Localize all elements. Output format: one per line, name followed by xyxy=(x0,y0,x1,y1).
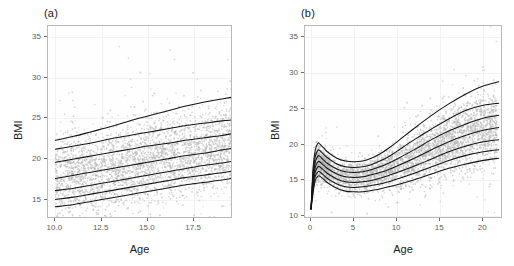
x-axis-tick-label: 5 xyxy=(351,223,355,232)
panel-a-tag: (a) xyxy=(44,7,58,19)
panel-a-x-axis-title: Age xyxy=(47,243,232,255)
y-axis-tick-mark xyxy=(44,117,47,118)
x-axis-tick-mark xyxy=(54,218,55,221)
y-axis-tick-mark xyxy=(301,72,304,73)
x-axis-tick-mark xyxy=(193,218,194,221)
x-axis-tick-label: 15.0 xyxy=(139,223,155,232)
data-layer xyxy=(305,26,502,218)
y-axis-tick-label: 20 xyxy=(274,139,298,148)
x-axis-tick-mark xyxy=(439,218,440,221)
centile-curve xyxy=(55,178,231,206)
x-axis-tick-label: 10.0 xyxy=(47,223,63,232)
y-axis-tick-mark xyxy=(301,108,304,109)
y-axis-tick-mark xyxy=(44,77,47,78)
y-axis-tick-label: 35 xyxy=(274,32,298,41)
x-axis-tick-mark xyxy=(147,218,148,221)
panel-a-plot-area xyxy=(47,25,232,218)
centile-curve xyxy=(55,97,231,140)
y-axis-tick-mark xyxy=(301,36,304,37)
x-axis-tick-mark xyxy=(482,218,483,221)
y-axis-tick-label: 35 xyxy=(17,32,41,41)
y-axis-tick-label: 10 xyxy=(274,211,298,220)
panel-b: (b) BMI Age 10152025303505101520 xyxy=(257,0,514,266)
panel-b-tag: (b) xyxy=(301,7,315,19)
x-axis-tick-label: 20 xyxy=(478,223,487,232)
y-axis-tick-label: 25 xyxy=(274,103,298,112)
panel-b-y-axis-title: BMI xyxy=(269,120,281,140)
y-axis-tick-mark xyxy=(301,179,304,180)
panel-a: (a) BMI Age 152025303510.012.515.017.5 xyxy=(0,0,257,266)
bmi-centile-figure: (a) BMI Age 152025303510.012.515.017.5 (… xyxy=(0,0,514,266)
panel-b-plot-area xyxy=(304,25,502,218)
x-axis-tick-label: 17.5 xyxy=(185,223,201,232)
y-axis-tick-mark xyxy=(44,199,47,200)
y-axis-tick-label: 15 xyxy=(274,175,298,184)
data-layer xyxy=(48,26,232,218)
x-axis-tick-mark xyxy=(396,218,397,221)
x-axis-tick-label: 10 xyxy=(392,223,401,232)
panel-b-x-axis-title: Age xyxy=(304,243,502,255)
x-axis-tick-label: 0 xyxy=(308,223,312,232)
y-axis-tick-label: 20 xyxy=(17,154,41,163)
y-axis-tick-mark xyxy=(44,158,47,159)
y-axis-tick-label: 25 xyxy=(17,113,41,122)
x-axis-tick-label: 15 xyxy=(435,223,444,232)
y-axis-tick-label: 30 xyxy=(17,72,41,81)
y-axis-tick-mark xyxy=(301,144,304,145)
x-axis-tick-mark xyxy=(353,218,354,221)
panel-a-y-axis-title: BMI xyxy=(12,120,24,140)
x-axis-tick-label: 12.5 xyxy=(93,223,109,232)
y-axis-tick-label: 15 xyxy=(17,194,41,203)
x-axis-tick-mark xyxy=(101,218,102,221)
y-axis-tick-mark xyxy=(301,215,304,216)
x-axis-tick-mark xyxy=(310,218,311,221)
y-axis-tick-mark xyxy=(44,36,47,37)
y-axis-tick-label: 30 xyxy=(274,68,298,77)
